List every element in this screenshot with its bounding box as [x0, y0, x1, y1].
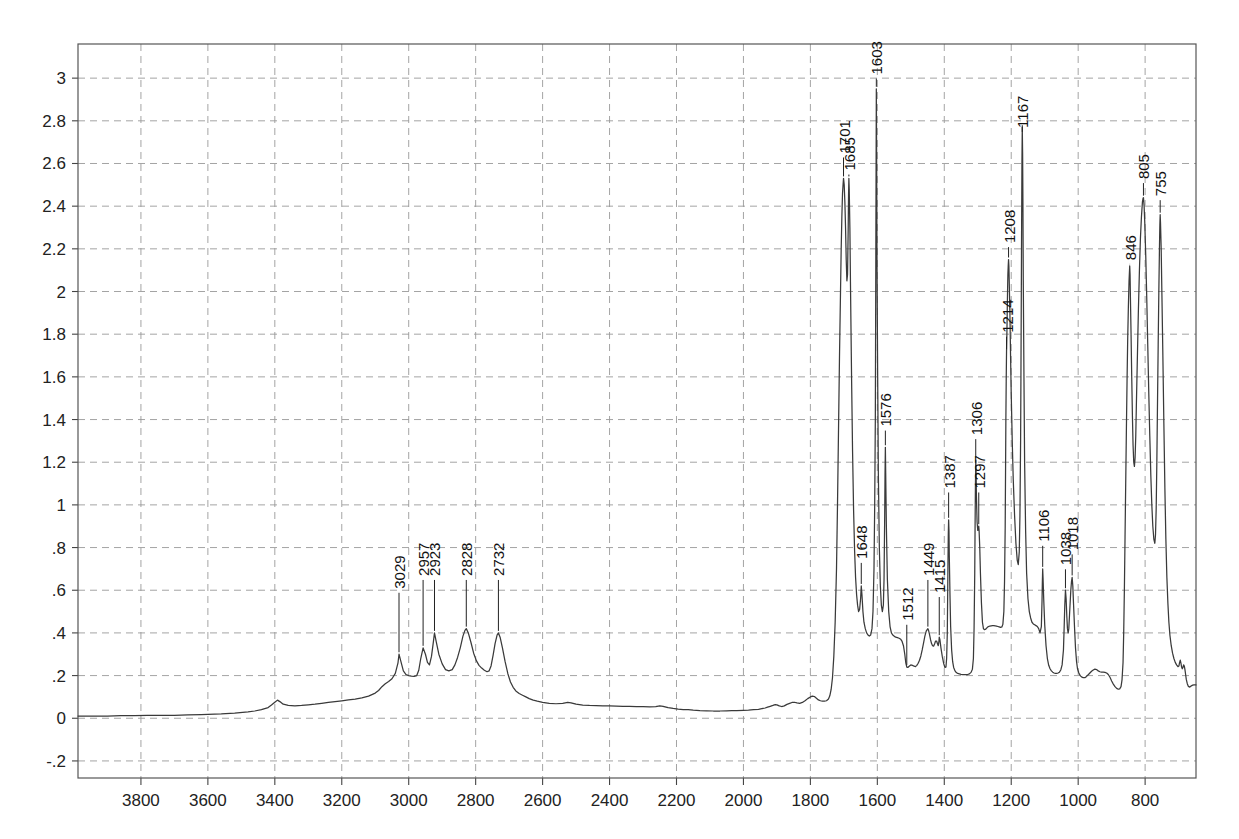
- x-tick-label: 1200: [992, 791, 1030, 810]
- peak-label: 2923: [426, 543, 443, 576]
- peak-label: 2828: [458, 543, 475, 576]
- y-tick-label: 2.4: [42, 197, 66, 216]
- peak-label: 846: [1122, 235, 1139, 260]
- peak-label: 1387: [941, 455, 958, 488]
- x-tick-label: 3400: [256, 791, 294, 810]
- peak-annotations: 3029295729232828273217011685164816031576…: [391, 41, 1169, 665]
- peak-label: 1576: [877, 393, 894, 426]
- peak-label: 1167: [1014, 96, 1031, 128]
- peak-label: 1306: [968, 402, 985, 435]
- x-tick-label: 1000: [1059, 791, 1097, 810]
- grid-lines: [78, 44, 1196, 778]
- y-tick-label: -.2: [46, 752, 66, 771]
- plot-frame: [78, 44, 1196, 778]
- y-axis-tick-labels: 32.82.62.42.221.81.61.41.21.8.6.4.20-.2: [42, 69, 66, 771]
- y-tick-label: .4: [52, 624, 66, 643]
- spectrum-trace: [78, 89, 1196, 716]
- y-tick-label: .8: [52, 539, 66, 558]
- y-tick-label: 2.8: [42, 112, 66, 131]
- x-axis-tick-labels: 3800360034003200300028002600240022002000…: [122, 791, 1159, 810]
- y-tick-label: 2.6: [42, 154, 66, 173]
- x-tick-label: 2800: [457, 791, 495, 810]
- peak-label: 1106: [1035, 510, 1052, 542]
- peak-label: 1208: [1001, 210, 1018, 243]
- x-tick-label: 3000: [390, 791, 428, 810]
- peak-label: 1512: [899, 587, 916, 620]
- y-tick-label: .6: [52, 581, 66, 600]
- peak-label: 1685: [841, 137, 858, 170]
- y-tick-label: .2: [52, 667, 66, 686]
- peak-label: 1297: [971, 455, 988, 488]
- y-tick-label: 1.6: [42, 368, 66, 387]
- x-tick-label: 1600: [858, 791, 896, 810]
- x-tick-label: 2200: [658, 791, 696, 810]
- x-tick-label: 3600: [189, 791, 227, 810]
- peak-label: 1648: [853, 526, 870, 559]
- x-tick-label: 2600: [524, 791, 562, 810]
- y-tick-label: 1: [57, 496, 66, 515]
- peak-label: 805: [1135, 154, 1152, 179]
- x-tick-label: 800: [1131, 791, 1159, 810]
- x-tick-label: 3800: [122, 791, 160, 810]
- x-tick-label: 1400: [925, 791, 963, 810]
- y-tick-label: 1.8: [42, 325, 66, 344]
- x-tick-label: 1800: [791, 791, 829, 810]
- y-tick-label: 2.2: [42, 240, 66, 259]
- peak-label: 3029: [391, 555, 408, 588]
- peak-label: 1603: [868, 41, 885, 74]
- peak-label: 1214: [999, 299, 1016, 332]
- peak-label: 1415: [931, 560, 948, 593]
- y-tick-label: 2: [57, 283, 66, 302]
- x-tick-label: 2000: [725, 791, 763, 810]
- y-tick-label: 3: [57, 69, 66, 88]
- x-tick-label: 2400: [591, 791, 629, 810]
- y-tick-label: 1.2: [42, 453, 66, 472]
- y-tick-label: 0: [57, 709, 66, 728]
- spectrum-page: 32.82.62.42.221.81.61.41.21.8.6.4.20-.2 …: [0, 0, 1239, 839]
- y-tick-label: 1.4: [42, 411, 66, 430]
- peak-label: 755: [1152, 171, 1169, 196]
- peak-label: 2732: [490, 543, 507, 576]
- peak-label: 1018: [1064, 517, 1081, 550]
- ir-spectrum-chart: 32.82.62.42.221.81.61.41.21.8.6.4.20-.2 …: [0, 0, 1239, 839]
- x-tick-label: 3200: [323, 791, 361, 810]
